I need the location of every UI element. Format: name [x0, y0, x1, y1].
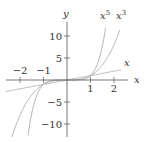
- y-axis-label: y: [62, 8, 69, 19]
- x-tick-label: −1: [36, 65, 51, 76]
- x-axis-label: x: [134, 74, 140, 85]
- plot: y x −2−112105−5−10 x5 x3 x: [0, 0, 147, 142]
- curves: [6, 28, 121, 137]
- legend-labels: x5 x3 x: [100, 9, 130, 68]
- label-x5: x5: [100, 9, 110, 21]
- axes: [6, 22, 128, 137]
- y-tick-label: 10: [49, 31, 62, 42]
- label-x3: x3: [116, 9, 126, 21]
- x-tick-label: 1: [87, 83, 93, 94]
- x-tick-label: −2: [13, 65, 28, 76]
- curve-x3: [12, 30, 120, 137]
- x-tick-label: 2: [111, 83, 117, 94]
- y-tick-label: −5: [47, 97, 62, 108]
- label-x: x: [124, 57, 130, 68]
- y-tick-label: 5: [56, 53, 62, 64]
- y-tick-label: −10: [41, 119, 62, 130]
